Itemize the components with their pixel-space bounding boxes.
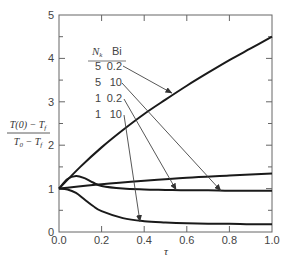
annotation-arrow	[122, 83, 221, 191]
x-tick-label: 0.2	[94, 234, 109, 246]
legend-bi: 0.2	[107, 60, 122, 72]
x-tick-label: 0.4	[137, 234, 152, 246]
y-tick-label: 3	[48, 96, 54, 108]
y-axis-label: T(0) − Tf T0 − Tf	[7, 119, 50, 149]
y-axis-label-denominator: T0 − Tf	[14, 136, 43, 149]
legend-nk: 5	[95, 60, 101, 72]
legend-nk: 5	[95, 76, 101, 88]
legend-row: 510	[95, 76, 122, 88]
y-axis-label-numerator: T(0) − Tf	[10, 119, 48, 132]
annotation-arrow	[123, 66, 172, 93]
annotation-arrow	[124, 115, 140, 222]
plot-frame	[59, 15, 272, 232]
y-tick-label: 4	[48, 52, 54, 64]
annotation-arrows	[122, 66, 221, 222]
series-line-3	[59, 189, 272, 225]
legend-row: 50.2	[95, 60, 122, 72]
legend-bi: 10	[110, 108, 122, 120]
series-line-0	[59, 37, 272, 189]
legend-nk: 1	[95, 92, 101, 104]
legend-bi: 0.2	[107, 92, 122, 104]
legend-bi: 10	[110, 76, 122, 88]
chart: 0.00.20.40.60.81.0 012345 τ T(0) − Tf T0…	[0, 0, 290, 267]
legend-header-bi: Bi	[112, 45, 122, 57]
x-tick-label: 0.6	[179, 234, 194, 246]
legend-row: 10.2	[95, 92, 122, 104]
y-tick-label: 0	[48, 226, 54, 238]
x-tick-label: 1.0	[264, 234, 279, 246]
y-tick-label: 2	[48, 139, 54, 151]
axis-ticks	[59, 15, 272, 232]
y-tick-label: 5	[48, 9, 54, 21]
annotation-arrow	[124, 99, 176, 190]
legend: Nk Bi 50.251010.2110	[88, 45, 126, 120]
y-tick-label: 1	[48, 183, 54, 195]
legend-nk: 1	[95, 108, 101, 120]
legend-header-nk: Nk	[91, 45, 103, 59]
x-tick-label: 0.8	[222, 234, 237, 246]
x-axis-label: τ	[164, 245, 169, 257]
y-tick-labels: 012345	[48, 9, 54, 238]
legend-row: 110	[95, 108, 122, 120]
